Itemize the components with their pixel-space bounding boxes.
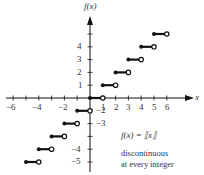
y-tick-label: 1	[78, 81, 83, 90]
x-tick-label: 5	[152, 103, 157, 112]
y-tick-label: 4	[77, 42, 82, 51]
x-axis-label: x	[195, 93, 199, 102]
formula-label: f(x) = ⟦x⟧	[121, 131, 156, 140]
note-line-2: at every integer	[121, 159, 174, 170]
y-tick-label: 3	[77, 55, 82, 64]
note-line-1: discontinuous	[121, 148, 168, 159]
y-tick-label: −2	[96, 106, 106, 115]
y-axis-arrow-icon	[87, 16, 93, 25]
x-tick-label: 3	[126, 103, 131, 112]
y-tick-label: −4	[71, 145, 81, 154]
y-tick-label: 2	[77, 68, 82, 77]
y-tick-label: −5	[71, 157, 81, 166]
x-tick-label: 2	[114, 103, 119, 112]
x-axis-arrow-icon	[185, 95, 194, 101]
x-tick-label: −6	[6, 103, 16, 112]
y-tick-label: −3	[96, 119, 106, 128]
x-tick-label: 4	[139, 103, 144, 112]
x-tick-label: −2	[58, 103, 68, 112]
x-tick-label: 6	[165, 103, 170, 112]
step-function-graph	[0, 0, 204, 175]
x-tick-label: −4	[32, 103, 42, 112]
y-axis-label: f(x)	[84, 2, 97, 11]
